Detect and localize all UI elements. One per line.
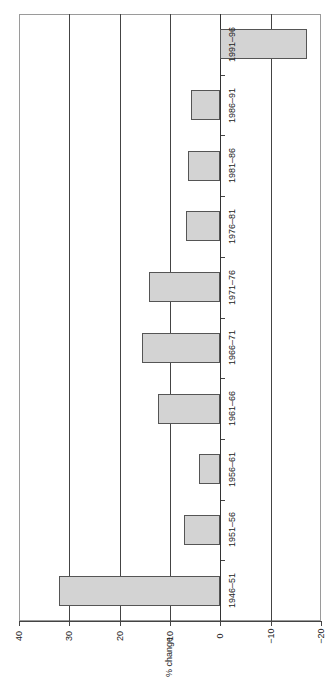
bar: [188, 151, 221, 181]
category-label: 1981–86: [226, 141, 237, 191]
category-axis-tick: [221, 257, 225, 258]
bar: [184, 515, 220, 545]
gridline: [271, 14, 272, 621]
category-axis-tick: [221, 378, 225, 379]
value-axis-tick-label: −10: [266, 624, 276, 648]
value-axis-tick-label: 20: [115, 624, 125, 648]
category-label: 1956–61: [226, 444, 237, 494]
bar: [59, 576, 220, 606]
category-label: 1991–96: [226, 19, 237, 69]
value-axis-tick-label: 40: [14, 624, 24, 648]
category-label: 1971–76: [226, 262, 237, 312]
category-axis-tick: [221, 500, 225, 501]
category-axis-tick: [221, 135, 225, 136]
category-axis-tick: [221, 75, 225, 76]
value-axis-tick-label: −20: [316, 624, 326, 648]
category-axis-tick: [221, 196, 225, 197]
bar: [186, 211, 220, 241]
bar: [199, 454, 221, 484]
category-label: 1951–56: [226, 505, 237, 555]
value-axis-tick-label: 30: [64, 624, 74, 648]
value-axis-tick-label: 0: [215, 624, 225, 648]
y-axis-label: % change: [164, 627, 176, 681]
category-axis-tick: [221, 560, 225, 561]
category-label: 1946–51: [226, 566, 237, 616]
gridline: [170, 14, 171, 621]
category-label: 1976–81: [226, 201, 237, 251]
bar: [191, 90, 220, 120]
bar: [149, 272, 220, 302]
category-label: 1961–66: [226, 384, 237, 434]
category-label: 1986–91: [226, 80, 237, 130]
gridline: [120, 14, 121, 621]
bar: [142, 333, 221, 363]
bar: [158, 394, 220, 424]
gridline: [69, 14, 70, 621]
category-label: 1966–71: [226, 323, 237, 373]
category-axis-tick: [221, 439, 225, 440]
category-axis-tick: [221, 318, 225, 319]
